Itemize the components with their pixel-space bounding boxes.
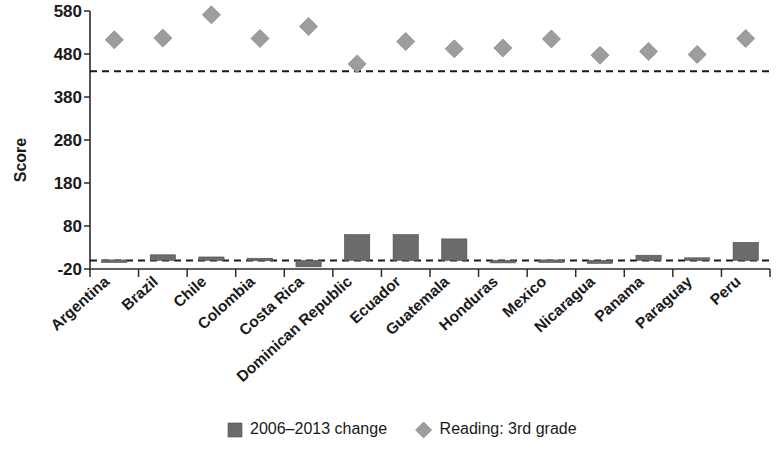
x-category-label: Brazil — [118, 273, 161, 314]
data-point-diamond — [251, 30, 269, 48]
data-point-diamond — [591, 46, 609, 64]
y-tick-label: 380 — [54, 88, 82, 107]
bar — [587, 260, 612, 263]
data-point-diamond — [397, 33, 415, 51]
y-axis — [84, 11, 90, 269]
y-tick-label: 180 — [54, 174, 82, 193]
bar — [733, 242, 758, 260]
reading-score-chart: Score -2080180280380480580 ArgentinaBraz… — [0, 0, 781, 460]
data-point-diamond — [154, 29, 172, 47]
reference-lines — [90, 71, 770, 260]
bar — [247, 258, 272, 261]
y-tick-label: -20 — [57, 260, 82, 279]
data-point-diamond — [494, 39, 512, 57]
y-tick-label: 80 — [63, 217, 82, 236]
data-point-diamond — [300, 17, 318, 35]
legend-swatch-diamond — [416, 422, 432, 438]
bar — [685, 258, 710, 261]
data-point-diamond — [202, 6, 220, 24]
legend-swatch-bar — [228, 423, 242, 437]
diamond-series — [105, 6, 754, 73]
bar — [442, 239, 467, 261]
data-point-diamond — [105, 31, 123, 49]
data-point-diamond — [688, 45, 706, 63]
x-category-label: Chile — [170, 272, 210, 310]
bar — [636, 255, 661, 260]
x-category-label: Peru — [707, 273, 744, 309]
bar — [102, 260, 127, 263]
y-tick-label: 480 — [54, 45, 82, 64]
bar — [539, 260, 564, 263]
y-tick-label: 280 — [54, 131, 82, 150]
chart-legend: 2006–2013 changeReading: 3rd grade — [228, 420, 577, 438]
bar — [345, 235, 370, 261]
x-axis-category-labels: ArgentinaBrazilChileColombiaCosta RicaDo… — [47, 272, 744, 385]
bar — [150, 255, 175, 261]
bar — [199, 257, 224, 260]
y-axis-title-group: Score — [12, 138, 29, 183]
x-axis-ticks — [90, 269, 770, 277]
x-axis — [90, 269, 770, 277]
x-category-label: Argentina — [47, 272, 112, 333]
y-axis-ticks — [84, 11, 90, 269]
bar — [490, 260, 515, 263]
data-point-diamond — [445, 40, 463, 58]
y-axis-tick-labels: -2080180280380480580 — [54, 2, 82, 279]
data-point-diamond — [640, 42, 658, 60]
legend-label: 2006–2013 change — [250, 420, 387, 437]
bar — [393, 235, 418, 261]
y-tick-label: 580 — [54, 2, 82, 21]
data-point-diamond — [542, 30, 560, 48]
legend-label: Reading: 3rd grade — [440, 420, 577, 437]
y-axis-title: Score — [12, 138, 29, 183]
data-point-diamond — [348, 55, 366, 73]
data-point-diamond — [737, 30, 755, 48]
chart-container: Score -2080180280380480580 ArgentinaBraz… — [0, 0, 781, 460]
bar — [296, 260, 321, 266]
bar-series — [102, 235, 759, 267]
